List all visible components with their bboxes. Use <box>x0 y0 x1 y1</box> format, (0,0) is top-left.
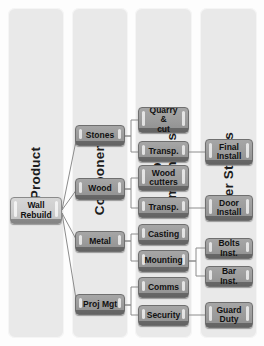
diagram-canvas: Product Components Sub- Components. User… <box>0 0 264 346</box>
node-label: Wood cutters <box>142 169 184 187</box>
node-mounting[interactable]: Mounting <box>138 250 189 272</box>
node-door-install[interactable]: Door Install <box>205 195 253 221</box>
node-label: Proj Mgt <box>76 300 124 309</box>
node-shade <box>139 321 188 325</box>
node-shade <box>139 240 188 244</box>
node-label: Stones <box>79 131 121 140</box>
node-shade <box>76 247 124 251</box>
node-label: Wood <box>81 184 118 193</box>
node-security[interactable]: Security <box>138 305 189 326</box>
node-wall-rebuild[interactable]: Wall Rebuild <box>10 197 62 224</box>
node-guard-duty[interactable]: Guard Duty <box>205 302 253 328</box>
node-label: Guard Duty <box>209 306 248 324</box>
node-comms[interactable]: Comms <box>138 277 189 298</box>
node-label: Wall Rebuild <box>13 201 58 219</box>
node-label: Security <box>140 311 188 320</box>
column-title-product: Product <box>28 147 43 199</box>
node-label: Mounting <box>138 256 189 265</box>
node-label: Final Install <box>210 143 249 161</box>
node-proj-mgt[interactable]: Proj Mgt <box>75 294 125 315</box>
column-panel-product: Product <box>8 8 64 338</box>
node-transp-2[interactable]: Transp. <box>138 197 189 218</box>
node-label: Bolts Inst. <box>206 239 252 257</box>
node-shade <box>139 213 188 217</box>
node-label: Metal <box>82 237 118 246</box>
node-label: Transp. <box>141 203 185 212</box>
node-label: Casting <box>141 230 186 239</box>
node-casting[interactable]: Casting <box>138 224 189 245</box>
node-label: Quarry & cut <box>139 107 188 133</box>
node-shade <box>139 267 188 271</box>
node-quarry-cut[interactable]: Quarry & cut <box>138 107 189 133</box>
column-panel-userstories: User Stories <box>200 8 257 338</box>
node-label: Bar Inst. <box>206 267 252 285</box>
node-shade <box>76 310 124 314</box>
node-bolts-inst[interactable]: Bolts Inst. <box>205 238 253 259</box>
node-bar-inst[interactable]: Bar Inst. <box>205 266 253 287</box>
node-shade <box>139 293 188 297</box>
node-wood[interactable]: Wood <box>75 178 125 200</box>
column-panel-components: Components <box>72 8 128 338</box>
node-label: Transp. <box>141 147 185 156</box>
node-final-install[interactable]: Final Install <box>205 139 253 165</box>
node-shade <box>76 195 124 199</box>
node-label: Door Install <box>210 199 249 217</box>
node-wood-cutters[interactable]: Wood cutters <box>138 165 189 191</box>
node-shade <box>139 157 188 161</box>
node-metal[interactable]: Metal <box>75 231 125 252</box>
node-transp-1[interactable]: Transp. <box>138 141 189 162</box>
node-shade <box>76 141 124 145</box>
node-stones[interactable]: Stones <box>75 125 125 146</box>
node-label: Comms <box>141 283 186 292</box>
